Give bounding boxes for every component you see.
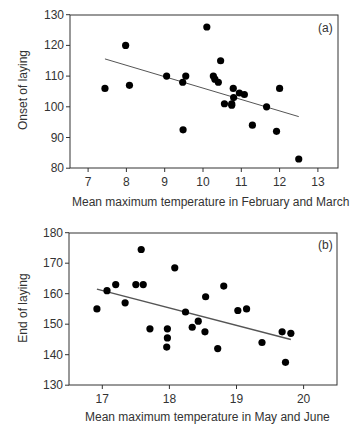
- data-point: [171, 264, 178, 271]
- y-tick-label: 90: [38, 131, 64, 145]
- plot-frame: [70, 15, 338, 168]
- data-point: [220, 282, 227, 289]
- x-tick-label: 9: [153, 175, 177, 189]
- x-tick-label: 8: [114, 175, 138, 189]
- x-tick-label: 18: [157, 392, 181, 406]
- x-axis-label-a: Mean maximum temperature in February and…: [72, 195, 349, 209]
- x-tick-label: 11: [229, 175, 253, 189]
- plot-frame: [69, 233, 337, 385]
- data-point: [140, 281, 147, 288]
- data-point: [243, 305, 250, 312]
- y-axis-label-b: End of laying: [16, 263, 30, 353]
- data-point: [126, 82, 133, 89]
- x-tick-label: 20: [292, 392, 316, 406]
- x-tick-label: 13: [306, 175, 330, 189]
- data-point: [138, 246, 145, 253]
- data-point: [163, 73, 170, 80]
- data-point: [279, 328, 286, 335]
- data-point: [103, 287, 110, 294]
- panel-label-a: (a): [318, 21, 333, 35]
- data-point: [163, 343, 170, 350]
- data-point: [122, 299, 129, 306]
- data-point: [221, 100, 228, 107]
- data-point: [228, 102, 235, 109]
- y-tick-label: 130: [37, 378, 63, 392]
- y-tick-label: 130: [38, 8, 64, 22]
- panel-label-b: (b): [318, 238, 333, 252]
- x-tick-label: 7: [76, 175, 100, 189]
- data-point: [179, 126, 186, 133]
- data-point: [112, 281, 119, 288]
- y-axis-label-a: Onset of laying: [16, 45, 30, 135]
- data-point: [122, 42, 129, 49]
- data-point: [241, 91, 248, 98]
- y-tick-label: 80: [38, 161, 64, 175]
- data-point: [201, 328, 208, 335]
- data-point: [101, 85, 108, 92]
- x-tick-label: 10: [191, 175, 215, 189]
- data-point: [230, 94, 237, 101]
- data-point: [295, 155, 302, 162]
- y-tick-label: 120: [38, 38, 64, 52]
- data-point: [203, 23, 210, 30]
- data-point: [263, 103, 270, 110]
- x-axis-label-b: Mean maximum temperature in May and June: [85, 410, 330, 424]
- x-tick-label: 19: [225, 392, 249, 406]
- x-tick-label: 17: [90, 392, 114, 406]
- data-point: [214, 345, 221, 352]
- data-point: [164, 334, 171, 341]
- data-point: [146, 325, 153, 332]
- data-point: [276, 85, 283, 92]
- data-point: [195, 318, 202, 325]
- data-point: [132, 281, 139, 288]
- data-point: [234, 307, 241, 314]
- chart-panel-a: Onset of laying Mean maximum temperature…: [0, 0, 351, 217]
- data-point: [273, 128, 280, 135]
- data-point: [179, 79, 186, 86]
- data-point: [249, 122, 256, 129]
- data-point: [258, 339, 265, 346]
- data-point: [215, 79, 222, 86]
- trend-line: [97, 289, 291, 339]
- x-tick-label: 12: [268, 175, 292, 189]
- y-tick-label: 100: [38, 100, 64, 114]
- data-point: [287, 330, 294, 337]
- data-point: [93, 305, 100, 312]
- data-point: [230, 85, 237, 92]
- data-point: [189, 324, 196, 331]
- y-tick-label: 140: [37, 348, 63, 362]
- data-point: [282, 359, 289, 366]
- chart-panel-b: End of laying Mean maximum temperature i…: [0, 217, 351, 434]
- y-tick-label: 180: [37, 226, 63, 240]
- data-point: [164, 325, 171, 332]
- data-point: [182, 73, 189, 80]
- y-tick-label: 160: [37, 287, 63, 301]
- data-point: [182, 308, 189, 315]
- data-point: [217, 57, 224, 64]
- y-tick-label: 150: [37, 317, 63, 331]
- y-tick-label: 170: [37, 256, 63, 270]
- data-point: [202, 293, 209, 300]
- y-tick-label: 110: [38, 69, 64, 83]
